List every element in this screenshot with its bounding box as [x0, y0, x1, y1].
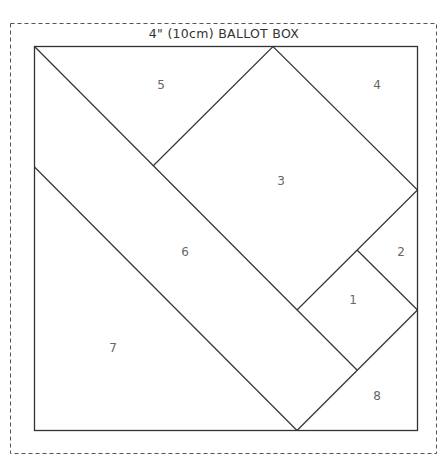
piece-number-1: 1: [349, 293, 357, 307]
block-title: 4" (10cm) BALLOT BOX: [0, 26, 448, 41]
piece-number-7: 7: [109, 341, 117, 355]
piece-number-8: 8: [373, 389, 381, 403]
piece-number-5: 5: [157, 78, 165, 92]
piece-number-3: 3: [277, 174, 285, 188]
piece-number-2: 2: [397, 245, 405, 259]
piece-lines: [35, 47, 418, 431]
piece-number-4: 4: [373, 78, 381, 92]
piece-number-6: 6: [181, 245, 189, 259]
